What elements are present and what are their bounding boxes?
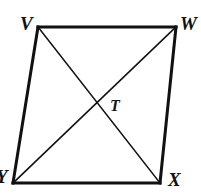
- vertex-label-y: Y: [0, 167, 8, 186]
- side-WX: [160, 27, 176, 183]
- intersection-label-t: T: [110, 98, 120, 114]
- diagonal-VX: [38, 27, 160, 183]
- diagonal-WY: [13, 27, 176, 183]
- side-YV: [13, 27, 38, 183]
- vertex-label-x: X: [168, 170, 181, 189]
- geometry-figure: V W X Y T: [0, 0, 201, 195]
- vertex-label-w: W: [180, 14, 197, 33]
- quadrilateral-diagonals: [13, 27, 176, 183]
- vertex-label-v: V: [20, 14, 33, 33]
